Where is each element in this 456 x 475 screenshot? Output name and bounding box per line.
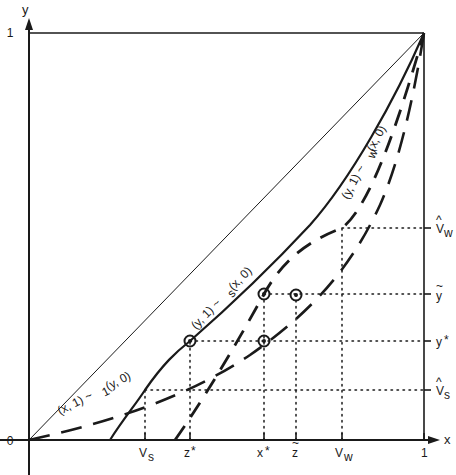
svg-text:(x, 0): (x, 0) — [364, 123, 389, 154]
svg-text:*: * — [444, 333, 449, 347]
y-axis-arrowhead — [25, 18, 33, 30]
tilde-accent-ytilde: ~ — [436, 279, 443, 293]
tilde-accent-ztilde: ~ — [292, 436, 299, 450]
point-xstar-ytilde — [259, 289, 270, 300]
x-tick-label-one: 1 — [421, 446, 428, 460]
curve-indifference-s — [110, 33, 424, 440]
svg-text:*: * — [265, 444, 270, 458]
x-tick-label-xstar: x * — [257, 444, 270, 460]
x-tick-label-zstar: z * — [184, 444, 196, 460]
svg-text:y: y — [436, 335, 442, 349]
point-ztilde-ytilde — [291, 290, 302, 301]
guide-lines — [145, 228, 424, 440]
svg-text:w: w — [443, 226, 453, 240]
curve-annotation-s: (y, 1) ~ s (x, 0) — [188, 264, 257, 335]
y-top-tick-label: 1 — [7, 26, 14, 40]
y-tick-labels: V ^ w y ~ y * V ^ s — [436, 213, 453, 402]
point-zstar-ystar — [185, 336, 196, 347]
svg-text:V: V — [139, 446, 147, 460]
svg-text:*: * — [191, 444, 196, 458]
origin-label: 0 — [7, 434, 14, 448]
x-tick-label-ztilde: z ~ — [292, 436, 299, 460]
y-tick-label-vwhat: V ^ w — [436, 213, 453, 240]
svg-text:s: s — [444, 388, 450, 402]
indifference-curve-figure: y x 1 0 V s z * x * z ~ V w 1 V ^ — [0, 0, 456, 475]
x-axis-arrowhead — [428, 436, 440, 444]
y-axis-label: y — [22, 2, 29, 17]
curve-annotation-w: (y, 1) ~ w (x, 0) — [338, 123, 392, 203]
svg-text:(x, 0): (x, 0) — [226, 264, 255, 293]
svg-text:1: 1 — [421, 446, 428, 460]
x-tick-label-vs: V s — [139, 446, 154, 464]
y-tick-label-ytilde: y ~ — [436, 279, 443, 303]
y-tick-label-vshat: V ^ s — [436, 375, 450, 402]
hat-accent-vshat: ^ — [436, 375, 442, 389]
svg-text:V: V — [335, 446, 343, 460]
x-axis-label: x — [444, 432, 451, 447]
x-axis-ticks — [145, 433, 424, 440]
svg-text:(y, 0): (y, 0) — [103, 369, 133, 393]
hat-accent-vwhat: ^ — [436, 213, 442, 227]
curve-annotation-1: (x, 1) ~ 1 (y, 0) — [55, 369, 135, 422]
svg-text:w: w — [343, 450, 353, 464]
svg-text:x: x — [257, 446, 263, 460]
svg-text:s: s — [148, 450, 154, 464]
svg-text:z: z — [184, 446, 190, 460]
x-tick-label-vw: V w — [335, 446, 353, 464]
y-axis-ticks — [424, 228, 431, 390]
y-tick-label-ystar: y * — [436, 333, 449, 349]
